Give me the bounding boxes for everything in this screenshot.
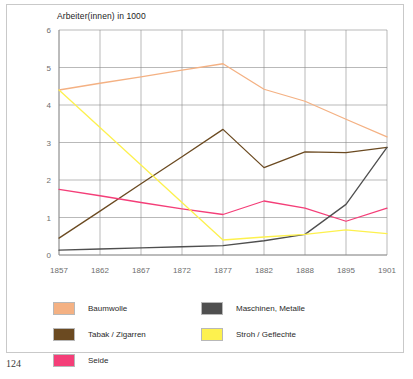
legend-entry: Stroh / Geflechte bbox=[201, 323, 305, 345]
legend-label: Maschinen, Metalle bbox=[236, 304, 305, 313]
y-axis-tick-label: 2 bbox=[47, 176, 52, 185]
legend-column-right: Maschinen, MetalleStroh / Geflechte bbox=[201, 297, 305, 349]
legend-entry: Seide bbox=[53, 349, 146, 371]
y-axis-tick-label: 1 bbox=[47, 214, 52, 223]
legend-color-swatch bbox=[201, 328, 223, 341]
x-axis-tick-label: 1857 bbox=[50, 266, 68, 275]
y-axis-tick-label: 0 bbox=[47, 251, 52, 260]
legend-color-swatch bbox=[53, 328, 75, 341]
x-axis-tick-label: 1872 bbox=[173, 266, 191, 275]
legend-label: Seide bbox=[88, 356, 108, 365]
y-axis-tick-label: 6 bbox=[47, 26, 52, 35]
page-number: 124 bbox=[6, 358, 21, 369]
legend-label: Baumwolle bbox=[88, 304, 127, 313]
legend-column-left: BaumwolleTabak / ZigarrenSeide bbox=[53, 297, 146, 375]
x-axis-tick-label: 1888 bbox=[296, 266, 314, 275]
figure-frame: Arbeiter(innen) in 1000 0123456185718621… bbox=[6, 4, 404, 353]
legend-color-swatch bbox=[53, 302, 75, 315]
y-axis-tick-label: 4 bbox=[47, 101, 52, 110]
legend-entry: Baumwolle bbox=[53, 297, 146, 319]
x-axis-tick-label: 1877 bbox=[214, 266, 232, 275]
legend-label: Stroh / Geflechte bbox=[236, 330, 296, 339]
x-axis-tick-label: 1862 bbox=[91, 266, 109, 275]
x-axis-tick-label: 1901 bbox=[378, 266, 396, 275]
y-axis-tick-label: 3 bbox=[47, 139, 52, 148]
x-axis-tick-label: 1882 bbox=[255, 266, 273, 275]
legend-color-swatch bbox=[201, 302, 223, 315]
legend-label: Tabak / Zigarren bbox=[88, 330, 146, 339]
y-axis-tick-label: 5 bbox=[47, 64, 52, 73]
legend-entry: Tabak / Zigarren bbox=[53, 323, 146, 345]
legend-entry: Maschinen, Metalle bbox=[201, 297, 305, 319]
legend-color-swatch bbox=[53, 354, 75, 367]
x-axis-tick-label: 1895 bbox=[337, 266, 355, 275]
x-axis-tick-label: 1867 bbox=[132, 266, 150, 275]
